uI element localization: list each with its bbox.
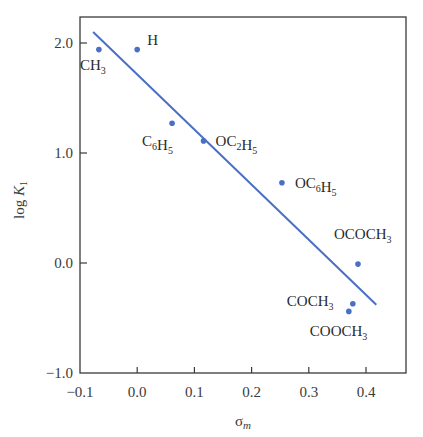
- data-point: [350, 301, 356, 307]
- y-tick-label: 2.0: [54, 35, 73, 51]
- point-label: COOCH3: [310, 323, 368, 342]
- data-point: [169, 121, 175, 127]
- regression-line: [93, 32, 376, 305]
- point-label: OC6H5: [295, 175, 337, 198]
- y-tick-label: 1.0: [54, 145, 73, 161]
- x-tick-label: 0.1: [185, 384, 204, 400]
- plot-frame: [80, 17, 406, 373]
- x-tick-label: 0.2: [242, 384, 261, 400]
- point-label: OCOCH3: [334, 226, 392, 245]
- y-tick-label: 0.0: [54, 255, 73, 271]
- y-axis-ticks: −1.00.01.02.0: [46, 35, 87, 381]
- x-axis-ticks: −0.10.00.10.20.30.4: [66, 367, 375, 400]
- data-point: [355, 261, 361, 267]
- fit-line: [93, 32, 376, 305]
- data-point: [201, 138, 207, 144]
- x-tick-label: 0.3: [299, 384, 318, 400]
- x-tick-label: −0.1: [66, 384, 93, 400]
- point-label: OC2H5: [216, 133, 258, 156]
- x-tick-label: 0.4: [357, 384, 376, 400]
- point-labels: CH3HC6H5OC2H5OC6H5OCOCH3COCH3COOCH3: [80, 32, 392, 343]
- hammett-plot: −0.10.00.10.20.30.4 −1.00.01.02.0 CH3HC6…: [0, 0, 423, 437]
- x-tick-label: 0.0: [128, 384, 147, 400]
- point-label: H: [147, 32, 158, 48]
- y-tick-label: −1.0: [46, 365, 73, 381]
- data-point: [346, 309, 352, 315]
- data-point: [279, 180, 285, 186]
- x-axis-title: σm: [235, 413, 251, 431]
- data-point: [134, 47, 140, 53]
- y-axis-title: log K1: [11, 181, 29, 219]
- data-point: [96, 47, 102, 53]
- point-label: C6H5: [142, 133, 173, 156]
- point-label: COCH3: [287, 293, 334, 312]
- point-label: CH3: [80, 57, 106, 76]
